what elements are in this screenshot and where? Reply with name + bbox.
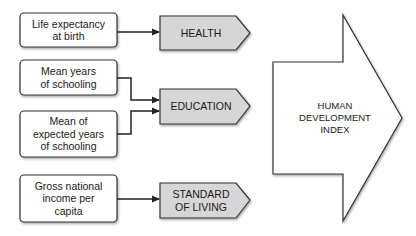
dimension-label-education: EDUCATION: [160, 89, 242, 124]
dimension-label-health: HEALTH: [160, 16, 242, 50]
indicator-label-life-expectancy: Life expectancy at birth: [20, 13, 117, 47]
indicator-label-gni: Gross national income per capita: [20, 175, 117, 222]
indicator-label-mean-years-schooling: Mean years of schooling: [20, 60, 117, 95]
indicator-label-expected-years-schooling: Mean of expected years of schooling: [20, 111, 117, 157]
hdi-label: HUMAN DEVELOPMENT INDEX: [290, 98, 380, 138]
dimension-label-standard-of-living: STANDARD OF LIVING: [160, 183, 242, 218]
connector-expected-years: [117, 111, 159, 134]
connector-mean-years: [117, 78, 159, 100]
